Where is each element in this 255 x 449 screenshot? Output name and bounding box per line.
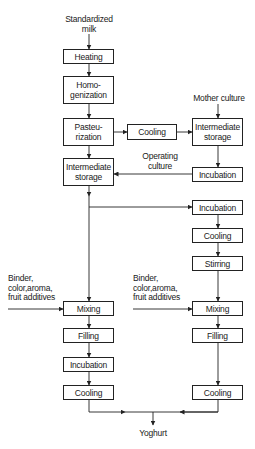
- step-set-cooling: Cooling: [63, 385, 114, 400]
- step-culture-intermediate-storage: Intermediate storage: [192, 118, 243, 146]
- step-stirred-filling: Filling: [192, 328, 243, 343]
- step-culture-incubation: Incubation: [192, 167, 243, 182]
- input-mother-culture: Mother culture: [186, 94, 252, 104]
- step-set-incubation: Incubation: [63, 357, 114, 372]
- step-pasteurization: Pasteu- rization: [63, 118, 114, 146]
- step-stirred-final-cooling: Cooling: [192, 385, 243, 400]
- flow-connectors: [0, 0, 255, 449]
- input-additives-right: Binder, color,aroma, fruit additives: [133, 274, 193, 303]
- input-additives-left: Binder, color,aroma, fruit additives: [8, 274, 68, 303]
- input-standardized-milk: Standardized milk: [56, 15, 122, 34]
- output-yoghurt: Yoghurt: [123, 429, 183, 439]
- input-operating-culture: Operating culture: [130, 152, 190, 171]
- step-homogenization: Homo- genization: [63, 76, 114, 104]
- step-intermediate-storage-main: Intermediate storage: [63, 158, 114, 186]
- step-set-mixing: Mixing: [63, 301, 114, 316]
- step-culture-cooling: Cooling: [127, 124, 177, 140]
- step-set-filling: Filling: [63, 328, 114, 343]
- step-stirred-incubation: Incubation: [192, 200, 243, 215]
- step-stirred-cooling: Cooling: [192, 228, 243, 243]
- step-stirred-mixing: Mixing: [192, 301, 243, 316]
- step-stirring: Stirring: [192, 256, 243, 271]
- step-heating: Heating: [63, 49, 114, 64]
